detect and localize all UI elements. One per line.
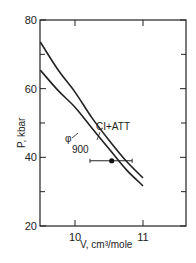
y-tick-label: 60	[25, 83, 37, 95]
y-tick-label: 80	[25, 14, 37, 26]
annotation-ci-att: CI+ATT	[96, 121, 130, 132]
chart: 101120406080 V, cm³/mole P, kbar CI+ATT …	[0, 0, 196, 263]
data-points	[90, 158, 132, 163]
data-point	[109, 158, 114, 163]
tick-labels: 101120406080	[25, 14, 149, 243]
y-tick-label: 20	[25, 220, 37, 232]
curve-ci-att	[40, 42, 143, 178]
x-tick-label: 11	[137, 231, 148, 243]
y-tick-label: 40	[25, 151, 37, 163]
curves	[40, 42, 143, 186]
y-axis-label: P, kbar	[16, 117, 27, 148]
annotation-phi-subscript: 900	[72, 144, 89, 155]
x-axis-label: V, cm³/mole	[80, 239, 133, 250]
annotation-phi: φ	[65, 133, 72, 144]
annotation-phi-pointer	[72, 133, 78, 138]
